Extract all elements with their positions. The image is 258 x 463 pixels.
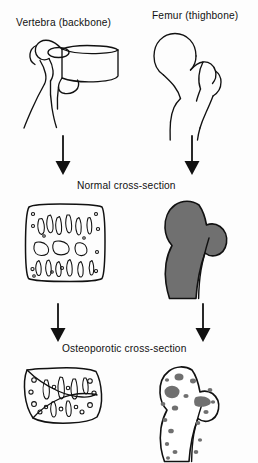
figure-artwork [0,0,258,463]
arrow-vertebra-to-normal-cross-section [56,136,71,175]
vertebra-osteoporotic-cross-section-illustration [25,368,102,423]
femur-whole-bone-illustration [154,34,221,141]
arrow-femur-to-normal-cross-section [185,136,200,175]
arrow-femur-to-osteoporotic-cross-section [196,304,211,342]
arrow-vertebra-to-osteoporotic-cross-section [51,304,66,342]
trabecular-texture-dense [31,212,100,277]
osteoporosis-bone-comparison-figure: Vertebra (backbone) Femur (thighbone) No… [0,0,258,463]
femur-normal-cross-section-illustration [165,201,227,298]
femur-osteoporotic-cross-section-illustration [160,367,219,462]
vertebra-whole-bone-illustration [24,40,118,128]
vertebra-normal-cross-section-illustration [26,204,106,282]
